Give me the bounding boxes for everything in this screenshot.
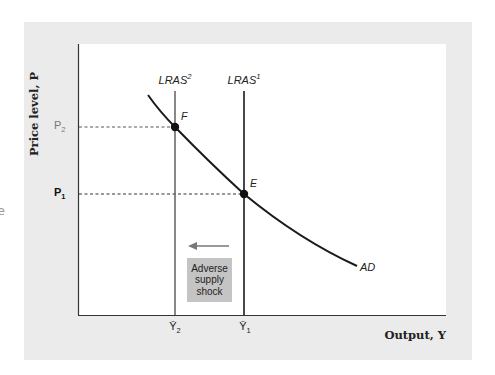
point-f-label: F — [181, 110, 187, 122]
price-tick-p2: P2 — [54, 119, 66, 134]
x-axis-label: Output, Y — [384, 328, 446, 342]
shock-line-1: Adverse — [191, 263, 228, 275]
price-tick-p1: P1 — [54, 186, 66, 201]
y-axis-label: Price level, P — [24, 44, 44, 184]
point-e-marker — [240, 190, 248, 198]
output-tick-ybar1: Ȳ1 — [239, 320, 251, 335]
lras2-label: LRAS2 — [159, 72, 192, 86]
ad-curve-label: AD — [360, 261, 375, 273]
ad-lras-diagram — [0, 0, 495, 375]
shock-line-3: shock — [196, 286, 222, 298]
point-e-label: E — [250, 177, 257, 189]
point-f-marker — [171, 123, 179, 131]
lras1-label: LRAS1 — [228, 72, 261, 86]
shock-line-2: supply — [195, 274, 224, 286]
plot-area — [78, 44, 446, 315]
output-tick-ybar2: Ȳ2 — [169, 320, 181, 335]
adverse-supply-shock-box: Adverse supply shock — [187, 258, 232, 302]
